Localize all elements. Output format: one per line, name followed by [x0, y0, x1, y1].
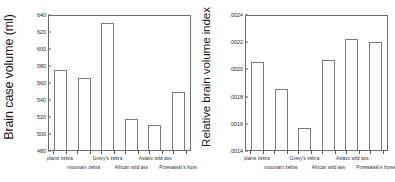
bar [101, 23, 114, 151]
bar [148, 125, 161, 150]
x-tick-mark [173, 151, 174, 154]
x-tick-label: African wild ass [115, 165, 148, 170]
bar-slot [340, 16, 364, 150]
x-tick-mark [149, 151, 150, 154]
y-tick-label: 580 [37, 63, 46, 69]
y-tick-label: .0024 [230, 12, 244, 18]
x-tick-label: plains zebra [244, 156, 270, 161]
bar [298, 128, 311, 150]
x-tick-label: Przewalski's horse [159, 165, 199, 170]
bar-slot [49, 16, 73, 150]
y-tick-label: 620 [37, 29, 46, 35]
y-axis-title-left: Brain case volume (ml) [0, 2, 18, 152]
bar [345, 39, 358, 150]
bar [251, 62, 264, 150]
x-tick-mark [114, 151, 115, 154]
bar-slot [317, 16, 341, 150]
x-axis-ticks-right [245, 151, 388, 155]
x-tick-mark [359, 151, 360, 154]
y-axis-title-right: Relative brain volume index [197, 2, 215, 152]
x-tick-label: Grevy's zebra [290, 156, 319, 161]
y-tick-label: 540 [37, 97, 46, 103]
bar [322, 60, 335, 150]
y-tick-label: 600 [37, 46, 46, 52]
plot-area-left [48, 15, 191, 151]
x-tick-mark [298, 151, 299, 154]
x-tick-mark [77, 151, 78, 154]
x-tick-label: African wild ass [312, 165, 345, 170]
bar [369, 42, 382, 150]
panel-brain-case-volume: Brain case volume (ml) 48050052054056058… [0, 0, 197, 182]
x-tick-mark [287, 151, 288, 154]
bar [78, 78, 91, 150]
bar [125, 119, 138, 150]
bar [54, 70, 67, 150]
x-axis-ticks-left [48, 151, 191, 155]
bar [172, 92, 185, 150]
x-tick-label: Grevy's zebra [93, 156, 122, 161]
y-axis-ticks-right: .0014.0016.0018.0020.0022.0024 [215, 0, 245, 182]
y-tick-label: .0016 [230, 121, 244, 127]
x-tick-mark [101, 151, 102, 154]
y-axis-ticks-left: 480500520540560580600620640 [20, 0, 48, 182]
y-tick-label: 640 [37, 12, 46, 18]
x-tick-mark [335, 151, 336, 154]
x-tick-mark [125, 151, 126, 154]
x-tick-label: Przewalski's horse [356, 165, 395, 170]
x-tick-mark [162, 151, 163, 154]
x-tick-mark [383, 151, 384, 154]
y-tick-label: 560 [37, 80, 46, 86]
x-tick-mark [311, 151, 312, 154]
x-tick-mark [370, 151, 371, 154]
bar-slot [96, 16, 120, 150]
x-tick-label: Asiatic wild ass [336, 156, 369, 161]
x-tick-label: plains zebra [47, 156, 73, 161]
bar-slot [364, 16, 388, 150]
bar-slot [246, 16, 270, 150]
bar-slot [293, 16, 317, 150]
bar [275, 89, 288, 150]
two-panel-bar-chart-figure: Brain case volume (ml) 48050052054056058… [0, 0, 395, 182]
bar-slot [120, 16, 144, 150]
x-tick-label: mountain zebra [264, 165, 297, 170]
x-tick-mark [346, 151, 347, 154]
x-tick-mark [186, 151, 187, 154]
y-tick-label: .0018 [230, 94, 244, 100]
x-tick-label: mountain zebra [67, 165, 100, 170]
x-tick-mark [138, 151, 139, 154]
x-tick-mark [90, 151, 91, 154]
bar-slot [143, 16, 167, 150]
x-tick-mark [66, 151, 67, 154]
bar-slot [270, 16, 294, 150]
bar-series-right [246, 16, 387, 150]
y-tick-label: .0020 [230, 66, 244, 72]
y-tick-label: 500 [37, 131, 46, 137]
x-tick-mark [322, 151, 323, 154]
x-tick-mark [250, 151, 251, 154]
x-tick-mark [53, 151, 54, 154]
x-tick-mark [274, 151, 275, 154]
x-tick-label: Asiatic wild ass [139, 156, 172, 161]
bar-series-left [49, 16, 190, 150]
y-tick-label: 480 [37, 148, 46, 154]
bar-slot [167, 16, 191, 150]
plot-area-right [245, 15, 388, 151]
bar-slot [73, 16, 97, 150]
y-tick-label: 520 [37, 114, 46, 120]
x-tick-mark [263, 151, 264, 154]
y-tick-label: .0022 [230, 39, 244, 45]
y-tick-label: .0014 [230, 148, 244, 154]
panel-relative-brain-volume-index: Relative brain volume index .0014.0016.0… [197, 0, 394, 182]
